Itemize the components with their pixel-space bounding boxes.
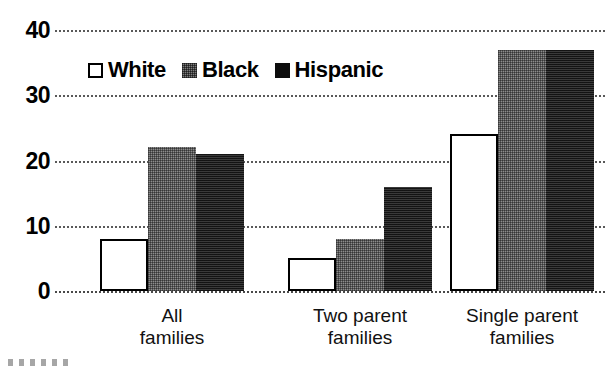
hatched-square-icon [182,63,197,78]
bar [196,154,244,291]
bar [100,239,148,291]
category-label: Single parentfamilies [427,305,610,350]
category-label-line: Single parent [427,305,610,327]
bar [384,187,432,291]
category-label-line: All [77,305,267,327]
bar [498,50,546,291]
bar [148,147,196,291]
bar-chart: 010203040 AllfamiliesTwo parentfamiliesS… [0,0,610,372]
category-label-line: families [77,327,267,349]
bar [546,50,594,291]
gridline-40 [55,30,605,32]
plot-area: AllfamiliesTwo parentfamiliesSingle pare… [55,0,605,372]
chart-legend: WhiteBlackHispanic [88,59,383,81]
legend-item: Black [182,59,259,81]
y-tick-label: 0 [2,280,50,303]
category-label: Allfamilies [77,305,267,350]
scan-artifact [8,359,74,366]
y-axis: 010203040 [0,0,50,372]
open-square-icon [88,63,103,78]
bar [450,134,498,291]
legend-item: White [88,59,166,81]
y-tick-label: 40 [2,19,50,42]
legend-label: White [108,59,166,81]
legend-label: Hispanic [295,59,384,81]
bar [336,239,384,291]
legend-label: Black [202,59,259,81]
legend-item: Hispanic [275,59,384,81]
y-tick-label: 10 [2,214,50,237]
filled-square-icon [275,63,290,78]
axis-baseline [55,291,605,293]
bar [288,258,336,291]
y-tick-label: 20 [2,149,50,172]
category-label-line: families [427,327,610,349]
y-tick-label: 30 [2,84,50,107]
